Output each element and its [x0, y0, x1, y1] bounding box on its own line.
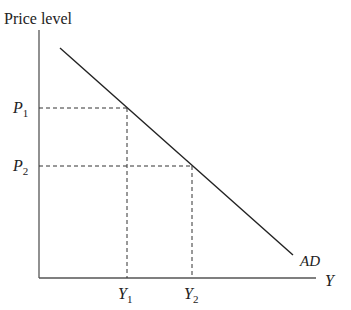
y1-label: Y1 [118, 285, 132, 305]
y2-label: Y2 [184, 285, 198, 305]
x-axis-label: Y [325, 272, 336, 289]
p2-label: P2 [12, 157, 28, 177]
y-axis-label: Price level [4, 10, 73, 27]
ad-curve [60, 48, 293, 255]
p1-label: P1 [12, 99, 28, 119]
ad-label: AD [299, 253, 320, 269]
ad-diagram: Price level P1 P2 Y1 Y2 AD Y [0, 0, 351, 310]
